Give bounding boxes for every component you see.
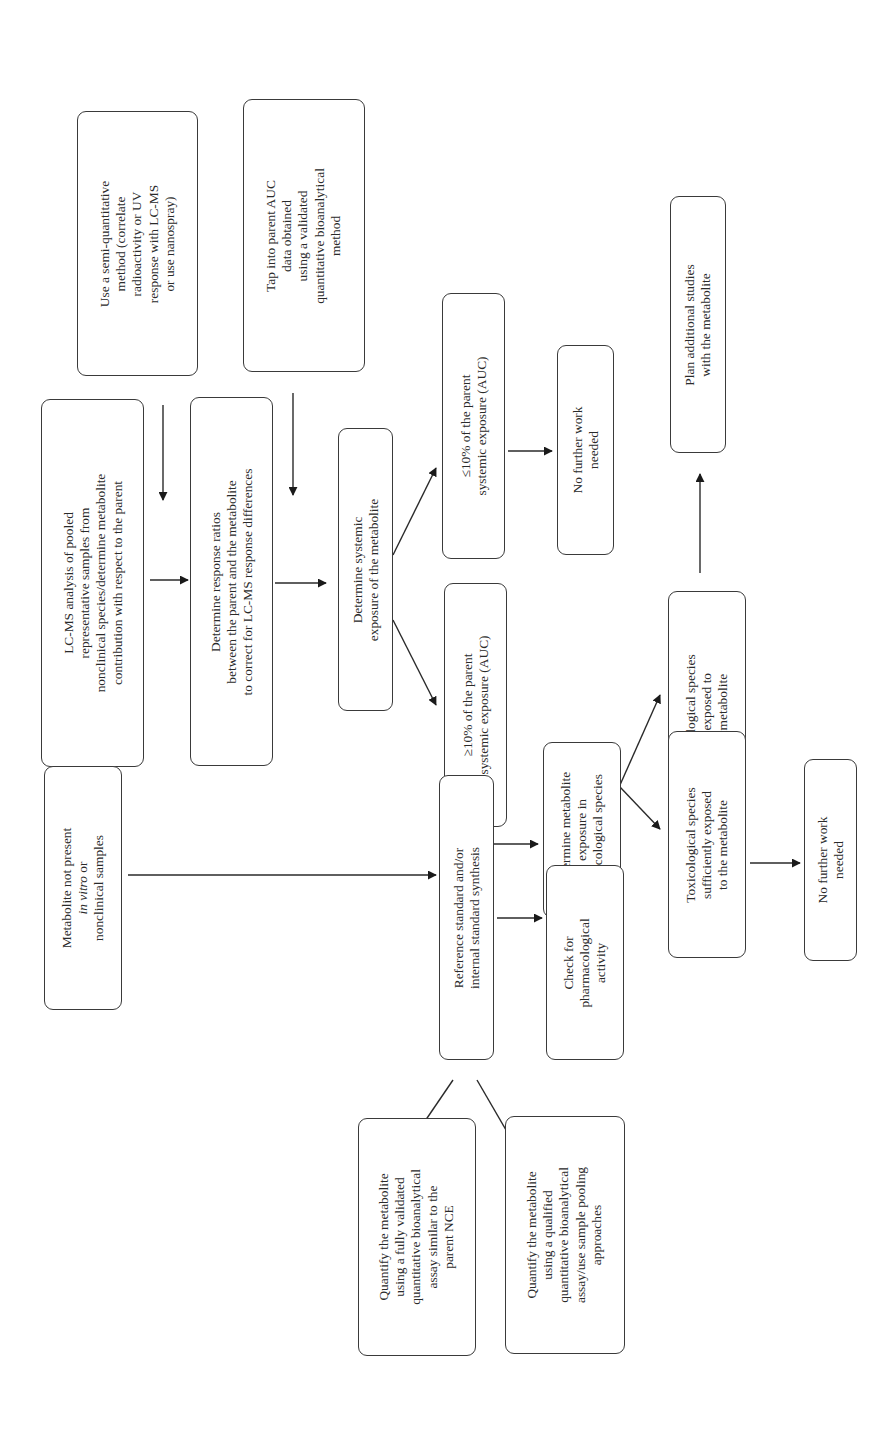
- node-le10-percent: ≤10% of the parent systemic exposure (AU…: [442, 293, 505, 559]
- not-present-line2: in vitro or: [75, 828, 91, 948]
- node-lcms-analysis: LC-MS analysis of pooled representative …: [41, 399, 144, 767]
- arrow-dettox-to-notexposed: [620, 695, 660, 785]
- node-systemic-exposure: Determine systemic exposure of the metab…: [338, 428, 393, 711]
- node-reference-standard: Reference standard and/or internal stand…: [439, 775, 494, 1060]
- arrow-systemic-to-le10: [393, 468, 436, 555]
- node-check-pharmacological: Check for pharmacological activity: [546, 865, 624, 1060]
- node-no-further-work-2: No further work needed: [804, 759, 857, 961]
- arrow-dettox-to-sufficient: [620, 787, 660, 829]
- node-tap-parent-auc: Tap into parent AUC data obtained using …: [243, 99, 365, 372]
- node-semi-quantitative-method: Use a semi-quantitative method (correlat…: [77, 111, 198, 376]
- node-plan-additional-studies: Plan additional studies with the metabol…: [670, 196, 726, 453]
- node-response-ratios: Determine response ratios between the pa…: [190, 397, 273, 766]
- arrow-systemic-to-ge10: [393, 620, 436, 705]
- node-quantify-fully-validated: Quantify the metabolite using a fully va…: [358, 1118, 476, 1356]
- node-quantify-qualified: Quantify the metabolite using a qualifie…: [505, 1116, 625, 1354]
- node-tox-sufficiently-exposed: Toxicological species sufficiently expos…: [668, 731, 746, 958]
- node-no-further-work-1: No further work needed: [557, 345, 614, 555]
- node-metabolite-not-present: Metabolite not present in vitro or noncl…: [44, 766, 122, 1010]
